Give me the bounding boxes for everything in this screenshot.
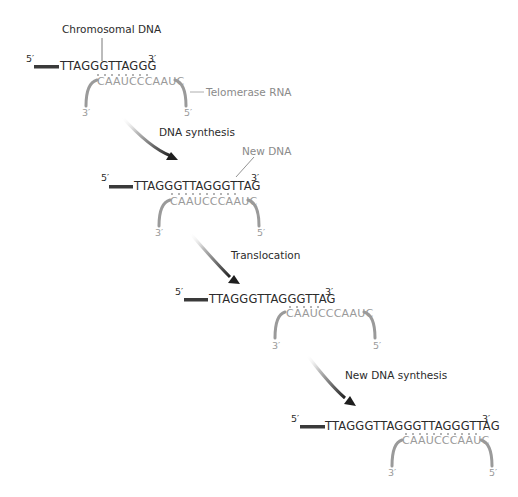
dna-strand-bar [300,425,325,429]
rna-arc-left [86,80,97,106]
rna-template-sequence: CAAUCCCAAUC [402,434,489,447]
rna-three-prime: 3′ [155,227,163,238]
rna-arc-left [275,312,285,338]
dna-sequence: TTAGGGTTAGGGTTAGGGTTAG [325,419,500,433]
step-dna-synthesis-label: DNA synthesis [159,126,235,138]
rna-arc-left [392,440,402,466]
dna-five-prime: 5′ [101,172,109,183]
dna-five-prime: 5′ [26,53,34,64]
rna-three-prime: 3′ [82,107,90,118]
arrow-head-icon [344,396,356,406]
rna-five-prime: 5′ [184,107,192,118]
new-dna-label: New DNA [242,145,291,157]
rna-five-prime: 5′ [489,467,497,478]
dna-three-prime: 3′ [325,286,333,297]
rna-template-sequence: CAAUCCCAAUC [170,195,257,208]
dna-strand-bar [34,65,59,69]
arrow-dna-synthesis [122,117,178,160]
rna-template-sequence: CAAUCCCAAUC [97,75,184,88]
rna-three-prime: 3′ [272,340,280,351]
rna-arc-left [159,200,170,226]
dna-strand-bar [184,298,208,302]
dna-sequence: TTAGGGTTAGGG [60,59,157,73]
step-translocation-label: Translocation [231,249,300,261]
dna-five-prime: 5′ [175,286,183,297]
dna-sequence: TTAGGGTTAGGGTTAG [134,179,261,193]
dna-three-prime: 3′ [251,172,259,183]
rna-three-prime: 3′ [388,467,396,478]
dna-sequence: TTAGGGTTAGGGTTAG [209,292,336,306]
telomerase-rna-label: Telomerase RNA [206,86,291,98]
dna-five-prime: 5′ [291,413,299,424]
dna-strand-bar [109,185,133,189]
rna-template-sequence: CAAUCCCAAUC [286,307,373,320]
arrow-curve [190,233,230,277]
rna-five-prime: 5′ [373,340,381,351]
step-new-dna-synthesis-label: New DNA synthesis [345,369,447,381]
chromosomal-dna-label: Chromosomal DNA [62,23,161,35]
dna-three-prime: 3′ [482,413,490,424]
dna-three-prime: 3′ [148,53,156,64]
rna-five-prime: 5′ [257,227,265,238]
arrow-curve [307,355,345,398]
